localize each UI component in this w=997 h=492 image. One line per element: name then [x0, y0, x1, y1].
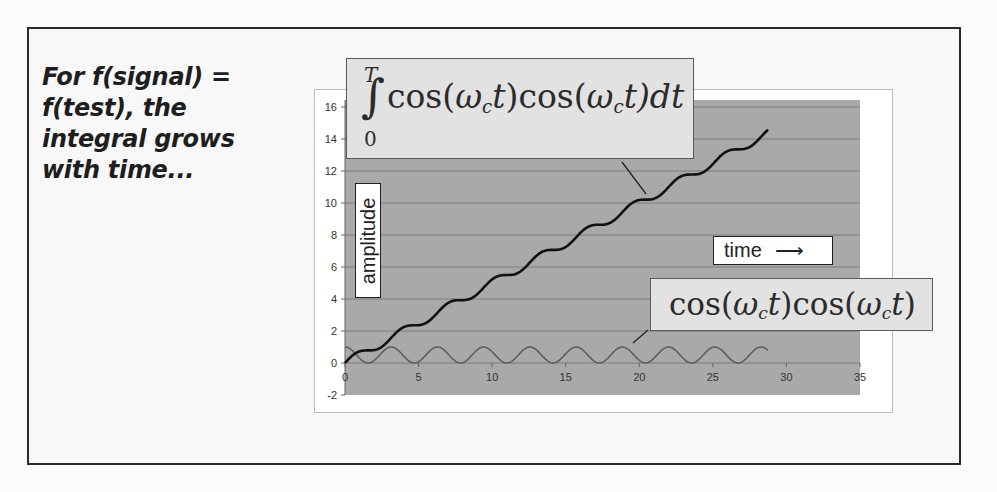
integral-lower-limit: 0 [364, 127, 377, 151]
expr-t: t [891, 286, 903, 322]
expr-omega: ω [455, 77, 482, 116]
y-tick-label: 6 [331, 261, 337, 273]
integral-symbol-icon: ∫ [361, 73, 385, 119]
y-tick-label: 8 [331, 229, 337, 241]
y-tick-label: -2 [327, 389, 337, 401]
amplitude-label-box: amplitude [355, 183, 381, 298]
expr-part: )cos( [780, 286, 856, 322]
y-tick-label: 16 [325, 101, 337, 113]
expr-t: t [492, 77, 505, 116]
expr-omega: ω [856, 286, 881, 322]
x-tick-label: 35 [854, 371, 866, 383]
x-tick-label: 30 [780, 371, 792, 383]
expr-part: )cos( [506, 77, 587, 116]
x-tick-label: 25 [707, 371, 719, 383]
y-tick-label: 10 [325, 197, 337, 209]
expr-subscript: c [758, 303, 768, 323]
expr-part: ) [904, 286, 916, 322]
expr-t: t [624, 77, 637, 116]
expr-subscript: c [614, 96, 624, 117]
y-tick-label: 14 [325, 133, 337, 145]
x-tick-label: 5 [416, 371, 422, 383]
integral-annotation: T ∫ 0 cos(ωct)cos(ωct)dt [346, 58, 694, 159]
expr-subscript: c [882, 303, 892, 323]
y-tick-label: 0 [331, 357, 337, 369]
expr-part: cos( [387, 77, 455, 116]
expr-omega: ω [587, 77, 614, 116]
expr-t: t [768, 286, 780, 322]
expr-part: cos( [669, 286, 733, 322]
y-tick-label: 4 [331, 293, 337, 305]
y-axis-label: amplitude [357, 197, 380, 284]
product-annotation: cos(ωct)cos(ωct) [650, 278, 933, 331]
product-expression: cos(ωct)cos(ωct) [669, 286, 916, 323]
y-tick-label: 2 [331, 325, 337, 337]
expr-subscript: c [482, 96, 492, 117]
x-tick-label: 0 [342, 371, 348, 383]
expr-omega: ω [733, 286, 758, 322]
expr-part: )dt [637, 77, 684, 116]
x-tick-label: 20 [633, 371, 645, 383]
arrow-right-icon: ⟶ [775, 237, 804, 263]
x-tick-label: 10 [486, 371, 498, 383]
integral-expression: cos(ωct)cos(ωct)dt [387, 77, 684, 117]
time-label-box: time ⟶ [713, 236, 833, 265]
x-axis-label: time [724, 239, 762, 261]
y-tick-label: 12 [325, 165, 337, 177]
x-tick-label: 15 [560, 371, 572, 383]
